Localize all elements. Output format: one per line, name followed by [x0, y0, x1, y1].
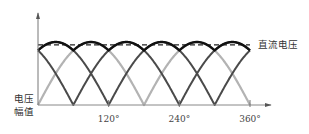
- rectified-voltage-chart: 120°240°360° 电压 幅值 直流电压: [0, 0, 309, 134]
- envelope-curve: [38, 42, 250, 50]
- x-ticks: 120°240°360°: [98, 100, 261, 124]
- wave-series: [38, 42, 250, 105]
- x-tick-label: 240°: [168, 114, 190, 124]
- y-axis-label-line2: 幅值: [14, 106, 34, 117]
- x-tick-label: 360°: [239, 114, 261, 124]
- y-axis-label-line1: 电压: [14, 93, 34, 104]
- dc-voltage-label: 直流电压: [258, 39, 298, 50]
- x-tick-label: 120°: [98, 114, 120, 124]
